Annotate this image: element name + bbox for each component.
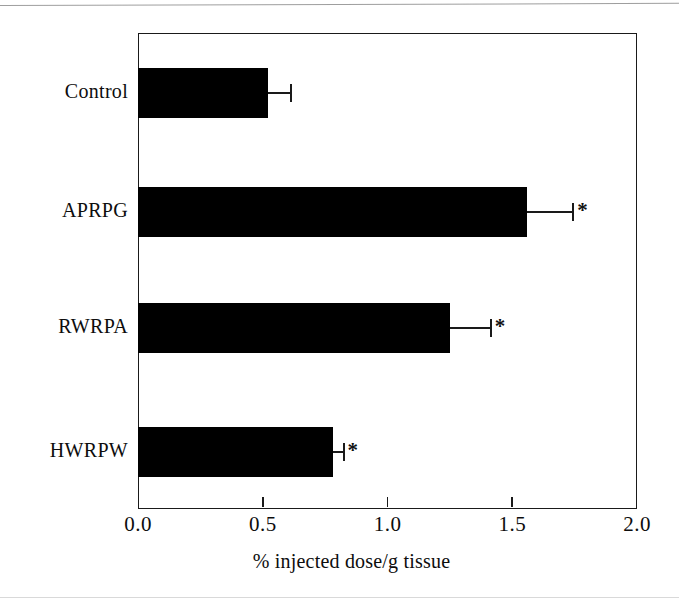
caption-bleed-text (0, 586, 679, 602)
x-axis-title: % injected dose/g tissue (0, 550, 679, 573)
error-bar-cap-control (290, 84, 292, 102)
significance-star-rwrpa: * (495, 316, 506, 337)
category-label-hwrpw: HWRPW (0, 439, 128, 462)
significance-star-aprpg: * (577, 200, 588, 221)
error-bar-line-aprpg (527, 211, 572, 213)
error-bar-line-control (268, 92, 290, 94)
error-bar-line-hwrpw (333, 451, 343, 453)
error-bar-cap-aprpg (572, 203, 574, 221)
x-tick-label-1.0: 1.0 (374, 512, 402, 537)
bar-rwrpa (138, 303, 450, 353)
x-tick-label-1.5: 1.5 (498, 512, 526, 537)
x-tick-label-0.0: 0.0 (124, 512, 152, 537)
bars-layer: *** (138, 33, 637, 509)
significance-star-hwrpw: * (348, 440, 359, 461)
category-label-control: Control (0, 80, 128, 103)
scan-artifact-line-bottom (0, 597, 679, 598)
error-bar-cap-hwrpw (343, 443, 345, 461)
x-tick-1.0 (387, 497, 389, 507)
scan-artifact-line-top (0, 3, 679, 6)
bar-aprpg (138, 187, 527, 237)
error-bar-cap-rwrpa (490, 319, 492, 337)
x-tick-label-0.5: 0.5 (249, 512, 277, 537)
figure-bar-chart: *** ControlAPRPGRWRPAHWRPW 0.00.51.01.52… (0, 0, 679, 602)
x-tick-1.5 (511, 497, 513, 507)
x-tick-0.5 (262, 497, 264, 507)
bar-hwrpw (138, 427, 333, 477)
bar-control (138, 68, 268, 118)
error-bar-line-rwrpa (450, 327, 490, 329)
x-tick-label-2.0: 2.0 (623, 512, 651, 537)
x-axis-title-text: % injected dose/g tissue (253, 550, 451, 572)
category-label-rwrpa: RWRPA (0, 315, 128, 338)
category-label-aprpg: APRPG (0, 199, 128, 222)
